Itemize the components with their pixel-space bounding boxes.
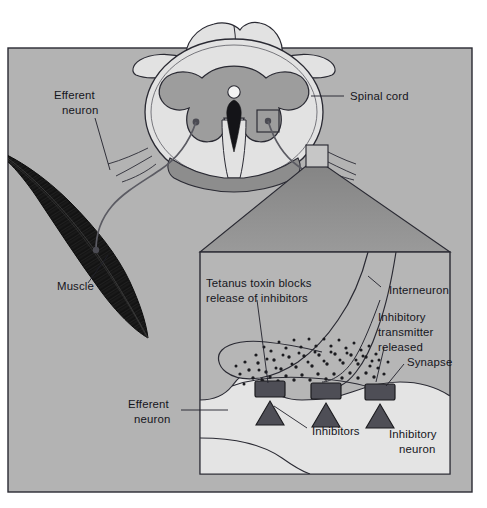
inhibitory-neuron-line1: Inhibitory [389, 428, 437, 440]
label-interneuron: Interneuron [389, 284, 449, 296]
label-inhibitory-transmitter: Inhibitory transmitter released [378, 311, 434, 353]
efferent-neuron-inset-line1: Efferent [128, 398, 170, 410]
efferent-neuron-top-line1: Efferent [54, 89, 96, 101]
tetanus-toxin-line1: Tetanus toxin blocks [206, 277, 312, 289]
label-efferent-neuron-inset: Efferent neuron [128, 398, 170, 425]
label-muscle: Muscle [57, 280, 94, 292]
tetanus-toxin-line2: release of inhibitors [206, 292, 308, 304]
efferent-neuron-top-line2: neuron [62, 104, 98, 116]
inhibitory-transmitter-line2: transmitter [378, 326, 434, 338]
inhibitory-neuron-line2: neuron [399, 443, 435, 455]
inhibitory-transmitter-line3: released [378, 341, 423, 353]
label-efferent-neuron-top: Efferent neuron [54, 89, 98, 116]
inhibitory-transmitter-line1: Inhibitory [378, 311, 426, 323]
label-layer: Efferent neuron Spinal cord Muscle Effer… [0, 0, 487, 508]
label-inhibitory-neuron: Inhibitory neuron [389, 428, 437, 455]
label-synapse: Synapse [407, 356, 452, 368]
label-spinal-cord: Spinal cord [350, 90, 409, 102]
label-tetanus-toxin: Tetanus toxin blocks release of inhibito… [206, 277, 312, 304]
figure-root: Efferent neuron Spinal cord Muscle Effer… [0, 0, 487, 508]
efferent-neuron-inset-line2: neuron [134, 413, 170, 425]
label-inhibitors: Inhibitors [312, 425, 360, 437]
